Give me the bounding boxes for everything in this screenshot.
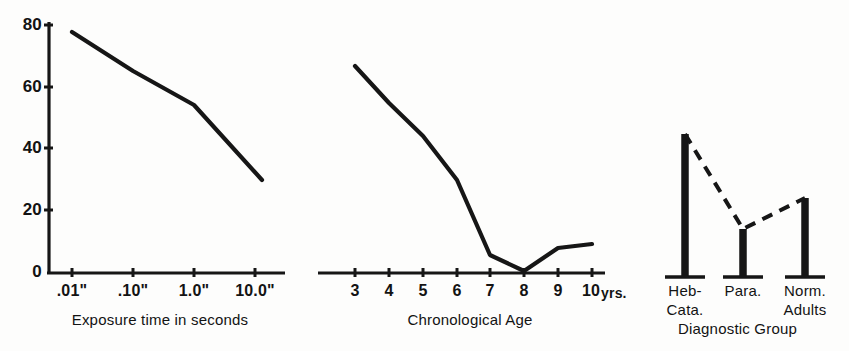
figure-container: 80 60 40 20 0 .01" .10" 1.0" 10.0" Expos…: [0, 0, 849, 351]
x-tick-label-0p10: .10": [103, 282, 163, 300]
y-tick-label-80: 80: [8, 15, 42, 35]
y-tick-label-40: 40: [8, 138, 42, 158]
x-axis-title-chronological-age: Chronological Age: [345, 311, 595, 328]
bar-label-norm-adults-line1: Norm.: [768, 282, 842, 299]
x-tick-label-1p0: 1.0": [164, 282, 224, 300]
y-tick-label-0: 0: [8, 262, 42, 282]
x-tick-label-age-9: 9: [548, 282, 568, 300]
x-axis-title-exposure-time: Exposure time in seconds: [30, 311, 290, 328]
bar-label-heb-cata-line2: Cata.: [648, 301, 722, 318]
x-tick-label-10p0: 10.0": [224, 282, 286, 300]
x-tick-label-age-10: 10: [581, 282, 601, 300]
x-tick-label-age-7: 7: [480, 282, 500, 300]
x-tick-label-0p01: .01": [42, 282, 102, 300]
bar-label-norm-adults-line2: Adults: [768, 301, 842, 318]
x-tick-label-age-3: 3: [345, 282, 365, 300]
x-tick-label-age-8: 8: [514, 282, 534, 300]
chart-panel-chronological-age: 3 4 5 6 7 8 9 10 yrs. Chronological Age: [300, 0, 620, 351]
chart-panel-diagnostic-group: Heb- Cata. Para. Norm. Adults Diagnostic…: [620, 0, 849, 351]
x-axis-title-diagnostic-group: Diagnostic Group: [655, 320, 820, 337]
x-tick-label-age-5: 5: [413, 282, 433, 300]
y-tick-label-60: 60: [8, 77, 42, 97]
bar-top-connector-dashed-line: [685, 134, 805, 229]
x-tick-label-age-6: 6: [447, 282, 467, 300]
chart-panel-exposure-time: 80 60 40 20 0 .01" .10" 1.0" 10.0" Expos…: [0, 0, 300, 351]
chronological-age-data-line: [355, 66, 592, 271]
x-tick-label-age-4: 4: [379, 282, 399, 300]
y-tick-label-20: 20: [8, 200, 42, 220]
exposure-time-data-line: [72, 32, 262, 180]
